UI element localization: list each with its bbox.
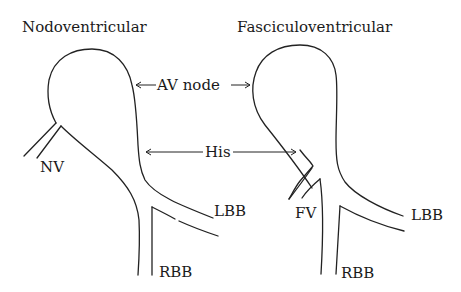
- right-rbb-label: RBB: [341, 264, 374, 282]
- right-panel-title: Fasciculoventricular: [237, 18, 393, 36]
- right-av-node-outline: [253, 45, 403, 216]
- his-left-arrow-icon: [146, 149, 203, 155]
- his-label-group: His: [146, 143, 296, 161]
- left-panel-title: Nodoventricular: [22, 18, 148, 36]
- his-right-arrow-icon: [233, 149, 296, 155]
- fv-tract-inner: [302, 179, 320, 198]
- right-lbb-label: LBB: [411, 206, 443, 224]
- right-his-left-edge: [289, 150, 313, 199]
- av-node-left-arrow-icon: [136, 82, 156, 88]
- nv-label: NV: [40, 158, 65, 176]
- his-label: His: [205, 143, 231, 161]
- conduction-diagram: Nodoventricular Fasciculoventricular: [0, 0, 461, 292]
- left-his-left-edge: [61, 126, 139, 275]
- av-node-label-group: AV node: [136, 76, 250, 94]
- left-lbb-lower-b: [179, 221, 218, 236]
- left-lbb-label: LBB: [214, 202, 246, 220]
- left-lbb-lower-a: [152, 207, 175, 219]
- right-rbb-right-edge: [336, 206, 340, 274]
- right-lbb-lower: [340, 206, 404, 231]
- left-rbb-label: RBB: [159, 263, 192, 281]
- fv-label: FV: [295, 204, 317, 222]
- right-rbb-left-edge: [320, 179, 322, 274]
- av-node-label: AV node: [156, 76, 220, 94]
- right-heart-structure: [253, 45, 404, 274]
- av-node-right-arrow-icon: [231, 82, 250, 88]
